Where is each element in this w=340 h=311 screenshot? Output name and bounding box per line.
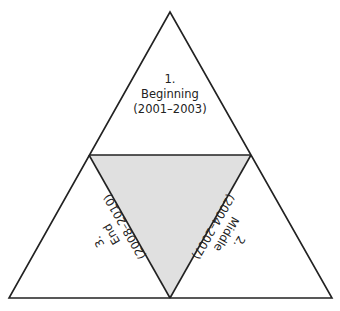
segment-number: 1. <box>110 72 230 87</box>
segment-range: (2001–2003) <box>110 102 230 117</box>
triangle-shapes <box>0 0 340 311</box>
segment-title: Beginning <box>110 87 230 102</box>
triangle-diagram: 1. Beginning (2001–2003) 2. Middle (2004… <box>0 0 340 311</box>
segment-label-beginning: 1. Beginning (2001–2003) <box>110 72 230 117</box>
